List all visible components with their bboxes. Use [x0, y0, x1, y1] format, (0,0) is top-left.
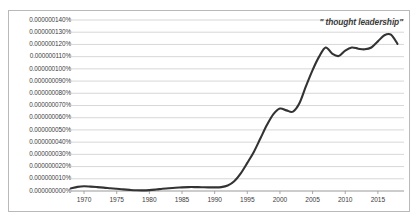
gridlines — [71, 20, 404, 179]
chart-container: 0.000000140%0.000000130%0.000000120%0.00… — [8, 10, 410, 212]
chart-plot-svg — [9, 11, 411, 213]
series-annotation-label: " thought leadership" — [319, 17, 403, 27]
plot-area: 0.000000140%0.000000130%0.000000120%0.00… — [9, 11, 409, 211]
